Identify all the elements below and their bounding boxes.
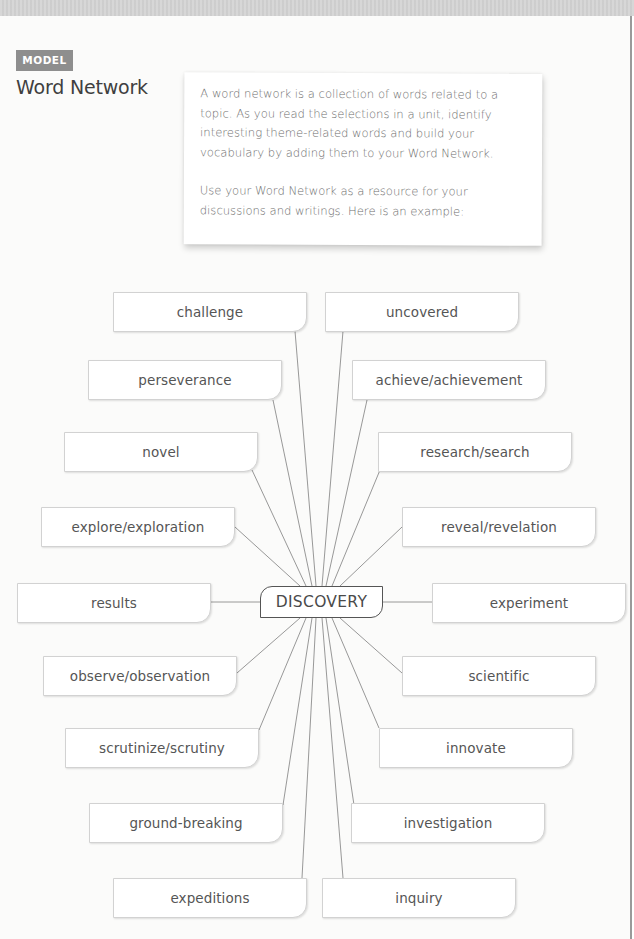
line-scientific [340, 618, 402, 673]
line-perseverance [273, 400, 312, 586]
line-explore [235, 527, 300, 586]
word-box-expeditions: expeditions [113, 878, 307, 918]
word-box-scrutinize: scrutinize/scrutiny [65, 728, 259, 768]
word-box-uncovered: uncovered [325, 292, 519, 332]
word-box-ground-breaking: ground-breaking [89, 803, 283, 843]
word-box-research: research/search [378, 432, 572, 472]
word-box-innovate: innovate [379, 728, 573, 768]
word-box-investigation: investigation [351, 803, 545, 843]
word-box-explore: explore/exploration [41, 507, 235, 547]
line-reveal [340, 527, 402, 586]
word-box-reveal: reveal/revelation [402, 507, 596, 547]
line-achieve [326, 400, 367, 586]
word-box-challenge: challenge [113, 292, 307, 332]
line-novel [252, 470, 306, 586]
word-box-achieve: achieve/achievement [352, 360, 546, 400]
word-box-experiment: experiment [432, 583, 626, 623]
line-inquiry [322, 618, 343, 878]
line-investigation [326, 618, 354, 805]
line-scrutinize [259, 618, 306, 730]
word-box-perseverance: perseverance [88, 360, 282, 400]
line-observe [237, 618, 300, 673]
line-challenge [295, 331, 316, 586]
word-box-scientific: scientific [402, 656, 596, 696]
word-box-inquiry: inquiry [322, 878, 516, 918]
line-uncovered [322, 331, 343, 586]
word-box-results: results [17, 583, 211, 623]
line-innovate [332, 618, 379, 728]
word-box-observe: observe/observation [43, 656, 237, 696]
word-box-novel: novel [64, 432, 258, 472]
center-word-box: DISCOVERY [260, 586, 383, 618]
line-expeditions [302, 618, 316, 878]
